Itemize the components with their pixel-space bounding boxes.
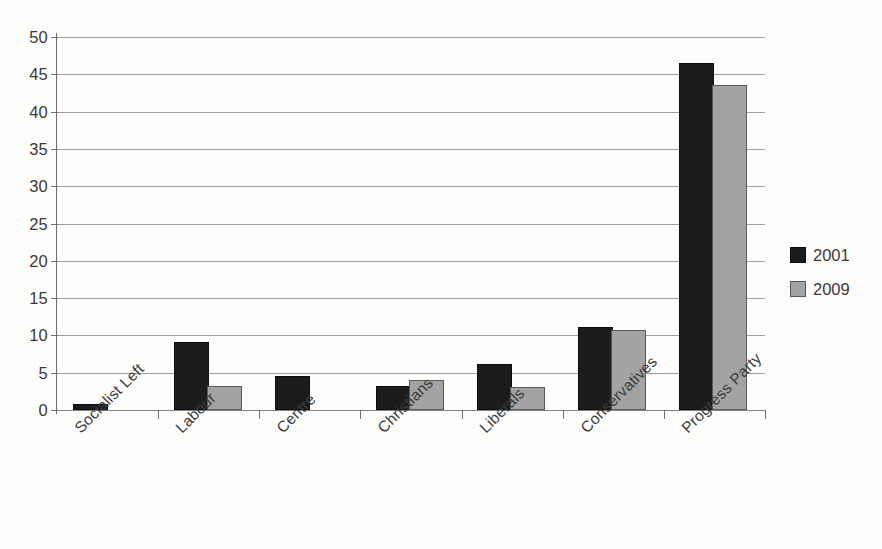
y-tick-label-10: 10 xyxy=(4,327,48,344)
legend-label: 2001 xyxy=(813,247,850,264)
y-tick-mark-40 xyxy=(51,112,58,113)
x-category-tick xyxy=(765,410,766,419)
legend-item: 2001 xyxy=(790,247,850,264)
y-tick-label-5: 5 xyxy=(4,364,48,381)
y-tick-label-20: 20 xyxy=(4,253,48,270)
y-tick-mark-35 xyxy=(51,149,58,150)
bar-group xyxy=(57,37,158,410)
x-category-tick xyxy=(462,410,463,419)
y-tick-mark-25 xyxy=(51,224,58,225)
y-tick-label-35: 35 xyxy=(4,141,48,158)
y-tick-mark-50 xyxy=(51,37,58,38)
y-axis: 05101520253035404550 xyxy=(0,0,48,549)
y-tick-label-15: 15 xyxy=(4,290,48,307)
bar-chart: 05101520253035404550 20012009 Socialist … xyxy=(0,0,882,549)
x-category-tick xyxy=(563,410,564,419)
bar-group xyxy=(462,37,563,410)
dark-square-swatch xyxy=(790,247,806,263)
bar-group xyxy=(360,37,461,410)
y-tick-label-0: 0 xyxy=(4,402,48,419)
y-tick-mark-15 xyxy=(51,298,58,299)
y-tick-label-45: 45 xyxy=(4,66,48,83)
x-category-tick xyxy=(360,410,361,419)
gray-square-swatch xyxy=(790,281,806,297)
y-tick-mark-10 xyxy=(51,335,58,336)
plot-area xyxy=(57,37,765,410)
bar-group xyxy=(158,37,259,410)
y-tick-mark-30 xyxy=(51,186,58,187)
y-tick-label-25: 25 xyxy=(4,215,48,232)
bar-2001 xyxy=(679,63,714,410)
y-tick-label-50: 50 xyxy=(4,29,48,46)
legend-label: 2009 xyxy=(813,281,850,298)
bar-group xyxy=(259,37,360,410)
legend-item: 2009 xyxy=(790,281,850,298)
x-category-tick xyxy=(664,410,665,419)
y-tick-mark-0 xyxy=(51,410,58,411)
y-tick-mark-20 xyxy=(51,261,58,262)
x-category-tick xyxy=(158,410,159,419)
y-tick-label-30: 30 xyxy=(4,178,48,195)
chart-legend: 20012009 xyxy=(790,247,850,314)
y-tick-mark-5 xyxy=(51,373,58,374)
y-tick-mark-45 xyxy=(51,74,58,75)
y-tick-label-40: 40 xyxy=(4,103,48,120)
x-category-tick xyxy=(259,410,260,419)
